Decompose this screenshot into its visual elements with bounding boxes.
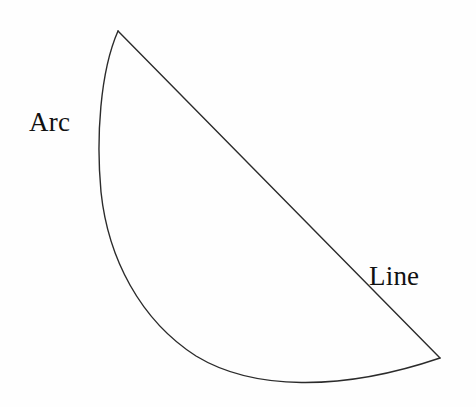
figure-background: [0, 0, 476, 407]
figure-container: Arc Line: [0, 0, 476, 407]
line-label: Line: [369, 263, 419, 290]
geometry-diagram: [0, 0, 476, 407]
arc-label: Arc: [29, 109, 70, 136]
